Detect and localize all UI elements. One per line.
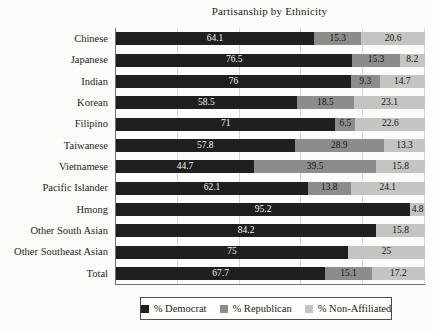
legend: % Democrat% Republican% Non-Affiliated bbox=[140, 297, 392, 320]
category-label: Chinese bbox=[0, 28, 108, 49]
bar-segment-republican: 18.5 bbox=[297, 96, 354, 109]
bar-segment-non-affiliated: 4.8 bbox=[410, 203, 425, 216]
bar-segment-non-affiliated: 24.1 bbox=[351, 182, 425, 195]
bar-row: 7525 bbox=[116, 246, 425, 259]
bar-segment-democrat: 57.8 bbox=[116, 139, 295, 152]
bar-value-label: 9.3 bbox=[359, 77, 371, 87]
bar-value-label: 22.6 bbox=[382, 119, 399, 129]
bar-segment-democrat: 58.5 bbox=[116, 96, 297, 109]
legend-swatch-republican-icon bbox=[220, 305, 228, 313]
bar-row: 44.739.515.8 bbox=[116, 160, 425, 173]
category-label: Japanese bbox=[0, 49, 108, 70]
category-label: Filipino bbox=[0, 113, 108, 134]
bar-value-label: 4.8 bbox=[412, 205, 424, 215]
bar-value-label: 18.5 bbox=[317, 98, 334, 108]
bar-value-label: 76 bbox=[229, 77, 239, 87]
bar-segment-non-affiliated: 8.2 bbox=[400, 54, 425, 67]
category-label: Total bbox=[0, 263, 108, 284]
bar-segment-non-affiliated: 14.7 bbox=[380, 75, 425, 88]
bar-value-label: 95.2 bbox=[255, 205, 272, 215]
bar-value-label: 76.5 bbox=[226, 55, 243, 65]
bar-value-label: 39.5 bbox=[307, 162, 324, 172]
bar-segment-republican: 13.8 bbox=[308, 182, 351, 195]
bar-value-label: 24.1 bbox=[379, 183, 396, 193]
bar-row: 64.115.320.6 bbox=[116, 32, 425, 45]
bar-segment-republican: 39.5 bbox=[254, 160, 376, 173]
bar-value-label: 14.7 bbox=[394, 77, 411, 87]
category-label: Vietnamese bbox=[0, 156, 108, 177]
bar-value-label: 44.7 bbox=[177, 162, 194, 172]
plot-area: 64.115.320.676.515.38.2769.314.758.518.5… bbox=[115, 28, 425, 285]
category-label: Pacific Islander bbox=[0, 177, 108, 198]
bar-row: 95.24.8 bbox=[116, 203, 425, 216]
bar-segment-democrat: 75 bbox=[116, 246, 348, 259]
bar-value-label: 23.1 bbox=[381, 98, 398, 108]
legend-swatch-non-affiliated-icon bbox=[305, 305, 313, 313]
legend-item-non-affiliated: % Non-Affiliated bbox=[305, 303, 392, 314]
bar-segment-non-affiliated: 15.8 bbox=[376, 160, 425, 173]
category-label: Hmong bbox=[0, 199, 108, 220]
bar-value-label: 64.1 bbox=[207, 34, 224, 44]
bar-value-label: 15.1 bbox=[340, 269, 357, 279]
bar-row: 76.515.38.2 bbox=[116, 54, 425, 67]
bar-value-label: 13.8 bbox=[321, 183, 338, 193]
bar-value-label: 28.9 bbox=[331, 141, 348, 151]
bar-segment-democrat: 67.7 bbox=[116, 267, 325, 280]
category-label: Korean bbox=[0, 92, 108, 113]
bar-row: 84.215.8 bbox=[116, 224, 425, 237]
bar-value-label: 62.1 bbox=[204, 183, 221, 193]
bar-row: 57.828.913.3 bbox=[116, 139, 425, 152]
bar-value-label: 57.8 bbox=[197, 141, 214, 151]
bar-segment-democrat: 95.2 bbox=[116, 203, 410, 216]
bar-row: 62.113.824.1 bbox=[116, 182, 425, 195]
bar-segment-democrat: 44.7 bbox=[116, 160, 254, 173]
bar-segment-democrat: 64.1 bbox=[116, 32, 314, 45]
bar-value-label: 15.3 bbox=[368, 55, 385, 65]
bar-value-label: 15.8 bbox=[392, 226, 409, 236]
bar-segment-non-affiliated: 22.6 bbox=[355, 118, 425, 131]
bar-value-label: 20.6 bbox=[385, 34, 402, 44]
bar-value-label: 15.3 bbox=[329, 34, 346, 44]
legend-swatch-democrat-icon bbox=[141, 305, 149, 313]
category-label: Other Southeast Asian bbox=[0, 241, 108, 262]
legend-label: % Non-Affiliated bbox=[318, 303, 392, 314]
chart-figure: Partisanship by Ethnicity ChineseJapanes… bbox=[0, 0, 433, 332]
bar-value-label: 58.5 bbox=[198, 98, 215, 108]
bar-value-label: 17.2 bbox=[390, 269, 407, 279]
bar-value-label: 67.7 bbox=[212, 269, 229, 279]
bar-value-label: 75 bbox=[227, 247, 237, 257]
bar-segment-republican: 28.9 bbox=[295, 139, 384, 152]
bar-value-label: 84.2 bbox=[238, 226, 255, 236]
category-axis: ChineseJapaneseIndianKoreanFilipinoTaiwa… bbox=[0, 28, 111, 284]
bar-value-label: 71 bbox=[221, 119, 231, 129]
bar-row: 716.522.6 bbox=[116, 118, 425, 131]
bar-value-label: 25 bbox=[382, 247, 392, 257]
bar-segment-non-affiliated: 13.3 bbox=[384, 139, 425, 152]
bar-segment-republican: 6.5 bbox=[335, 118, 355, 131]
bar-segment-republican: 15.3 bbox=[352, 54, 399, 67]
bar-value-label: 8.2 bbox=[406, 55, 418, 65]
bar-segment-non-affiliated: 17.2 bbox=[372, 267, 425, 280]
bar-value-label: 13.3 bbox=[396, 141, 413, 151]
category-label: Taiwanese bbox=[0, 135, 108, 156]
bar-segment-republican: 15.1 bbox=[325, 267, 372, 280]
category-label: Other South Asian bbox=[0, 220, 108, 241]
legend-item-republican: % Republican bbox=[220, 303, 292, 314]
bar-segment-non-affiliated: 23.1 bbox=[354, 96, 425, 109]
bar-segment-democrat: 84.2 bbox=[116, 224, 376, 237]
bar-segment-democrat: 76 bbox=[116, 75, 351, 88]
legend-item-democrat: % Democrat bbox=[141, 303, 207, 314]
bar-value-label: 15.8 bbox=[392, 162, 409, 172]
legend-label: % Republican bbox=[233, 303, 292, 314]
bar-segment-democrat: 62.1 bbox=[116, 182, 308, 195]
bar-segment-democrat: 71 bbox=[116, 118, 335, 131]
bar-segment-non-affiliated: 15.8 bbox=[376, 224, 425, 237]
bar-segment-non-affiliated: 20.6 bbox=[361, 32, 425, 45]
legend-label: % Democrat bbox=[154, 303, 207, 314]
bar-segment-republican: 15.3 bbox=[314, 32, 361, 45]
bar-segment-democrat: 76.5 bbox=[116, 54, 352, 67]
bar-row: 67.715.117.2 bbox=[116, 267, 425, 280]
bar-row: 58.518.523.1 bbox=[116, 96, 425, 109]
bar-segment-republican: 9.3 bbox=[351, 75, 380, 88]
chart-title: Partisanship by Ethnicity bbox=[115, 5, 424, 17]
